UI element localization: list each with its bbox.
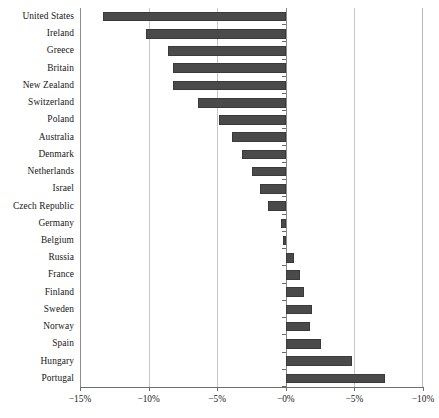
bar-row: Russia [0,249,434,266]
bar-row: Belgium [0,232,434,249]
category-label: Germany [0,215,74,232]
bar-row: Ireland [0,25,434,42]
bar-row: Norway [0,318,434,335]
x-tick-label: −5% [331,394,377,405]
bar-row: United States [0,8,434,25]
category-label: Poland [0,111,74,128]
category-label: Portugal [0,370,74,387]
x-axis-line [80,387,423,388]
category-label: Belgium [0,232,74,249]
bar-row: New Zealand [0,77,434,94]
bar [219,115,286,125]
category-label: France [0,266,74,283]
chart-rows: United StatesIrelandGreeceBritainNew Zea… [0,8,434,387]
x-tick-label: −5% [194,394,240,405]
category-label: Hungary [0,353,74,370]
category-label: Russia [0,249,74,266]
bar [281,219,286,229]
bar [173,63,286,73]
bar [283,236,286,246]
bar-row: Britain [0,60,434,77]
bar-row: Netherlands [0,163,434,180]
bar [286,339,322,349]
x-tick [354,387,355,391]
bar [198,98,286,108]
bar [252,167,286,177]
x-tick [217,387,218,391]
bar [146,29,286,39]
x-tick [286,387,287,391]
category-label: Sweden [0,301,74,318]
category-label: Netherlands [0,163,74,180]
category-label: Norway [0,318,74,335]
bar-row: Switzerland [0,94,434,111]
category-label: Switzerland [0,94,74,111]
bar [103,12,285,22]
bar-row: Sweden [0,301,434,318]
category-label: Israel [0,180,74,197]
category-label: New Zealand [0,77,74,94]
x-tick-label: −0% [263,394,309,405]
bar [286,374,385,384]
bar-row: Australia [0,129,434,146]
bar [268,201,286,211]
bar [242,150,286,160]
bar [173,81,286,91]
bar [232,132,286,142]
bar [286,305,312,315]
category-label: Denmark [0,146,74,163]
bar-row: Hungary [0,353,434,370]
x-tick-label: −10% [400,394,439,405]
bar-row: Poland [0,111,434,128]
bar-row: Israel [0,180,434,197]
bar [286,253,294,263]
category-label: Finland [0,284,74,301]
bar-row: Portugal [0,370,434,387]
category-label: United States [0,8,74,25]
bar-row: Denmark [0,146,434,163]
bar [286,270,300,280]
x-tick [423,387,424,391]
bar [286,356,352,366]
category-label: Ireland [0,25,74,42]
bar-row: Spain [0,335,434,352]
bar-row: Finland [0,284,434,301]
scan-bleed-through [150,404,152,413]
bar [286,287,304,297]
category-label: Britain [0,60,74,77]
x-tick-label: −10% [126,394,172,405]
bar [260,184,286,194]
category-label: Greece [0,42,74,59]
category-label: Australia [0,129,74,146]
bar-row: Czech Republic [0,198,434,215]
bar-row: France [0,266,434,283]
bar-row: Germany [0,215,434,232]
bar [286,322,311,332]
x-tick [80,387,81,391]
category-label: Spain [0,335,74,352]
x-tick [149,387,150,391]
category-label: Czech Republic [0,198,74,215]
x-tick-label: −15% [57,394,103,405]
bar [168,46,286,56]
bar-row: Greece [0,42,434,59]
